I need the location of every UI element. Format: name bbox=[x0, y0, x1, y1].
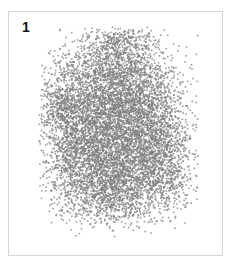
chart-panel: 1 bbox=[8, 11, 223, 256]
scatter-plot bbox=[9, 12, 224, 257]
scatter-points bbox=[38, 26, 199, 237]
panel-label: 1 bbox=[22, 19, 30, 35]
